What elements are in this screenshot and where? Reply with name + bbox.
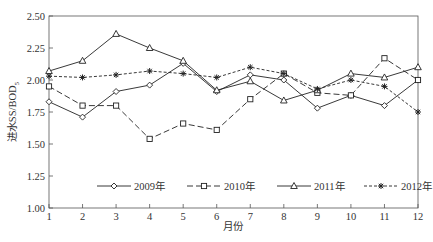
x-tick-label: 1: [46, 211, 51, 222]
y-axis-label: 进水SS/BOD5: [7, 81, 21, 142]
legend-item: 2011年: [277, 180, 345, 192]
plot-frame: [49, 16, 418, 208]
x-tick-label: 11: [379, 211, 389, 222]
series-2012年: [46, 64, 421, 115]
series-2010年: [46, 56, 420, 142]
legend: 2009年2010年2011年2012年: [97, 180, 432, 192]
x-tick-label: 5: [181, 211, 186, 222]
svg-text:2010年: 2010年: [224, 180, 255, 192]
y-tick-label: 2.50: [27, 11, 45, 22]
svg-text:2011年: 2011年: [314, 180, 345, 192]
x-tick-label: 7: [248, 211, 253, 222]
y-tick-label: 2.00: [27, 75, 45, 86]
legend-item: 2010年: [187, 180, 255, 192]
x-tick-label: 9: [315, 211, 320, 222]
x-tick-label: 3: [113, 211, 118, 222]
legend-item: 2012年: [364, 180, 432, 192]
series-2009年: [46, 60, 421, 120]
x-tick-label: 6: [214, 211, 219, 222]
y-tick-label: 1.00: [27, 203, 45, 214]
y-tick-label: 1.75: [27, 107, 45, 118]
x-tick-label: 12: [413, 211, 424, 222]
x-axis-ticks: 123456789101112: [46, 204, 423, 222]
line-chart: 1.001.251.501.752.002.252.50 12345678910…: [0, 0, 433, 242]
y-tick-label: 1.50: [27, 139, 45, 150]
x-tick-label: 2: [80, 211, 85, 222]
series-2011年: [46, 30, 422, 103]
legend-item: 2009年: [97, 180, 165, 192]
x-tick-label: 4: [147, 211, 153, 222]
x-axis-label: 月份: [223, 221, 244, 232]
svg-text:2012年: 2012年: [401, 180, 432, 192]
y-tick-label: 1.25: [27, 171, 45, 182]
y-tick-label: 2.25: [27, 43, 45, 54]
x-tick-label: 10: [346, 211, 357, 222]
svg-text:2009年: 2009年: [134, 180, 165, 192]
x-tick-label: 8: [281, 211, 286, 222]
series-lines: [46, 30, 422, 141]
